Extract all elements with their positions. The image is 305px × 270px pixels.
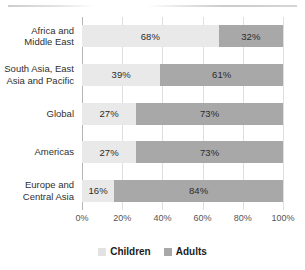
bar-value-label: 61% — [212, 69, 231, 80]
category-label-line: Americas — [0, 146, 74, 158]
bar-segment-children: 16% — [82, 180, 114, 202]
x-tick-label: 80% — [234, 213, 252, 223]
category-label: South Asia, EastAsia and Pacific — [0, 63, 74, 86]
legend-swatch-adults-icon — [164, 248, 172, 256]
bar-value-label: 16% — [88, 185, 107, 196]
bar-value-label: 73% — [200, 147, 219, 158]
legend-label: Adults — [176, 246, 207, 257]
bar-segment-adults: 73% — [136, 141, 283, 163]
category-label-line: Central Asia — [0, 191, 74, 203]
bar-segment-adults: 32% — [219, 25, 283, 47]
category-label-line: South Asia, East — [0, 63, 74, 75]
legend-item-children[interactable]: Children — [98, 246, 151, 257]
x-tick-label: 60% — [194, 213, 212, 223]
bar-value-label: 84% — [189, 185, 208, 196]
stacked-bar-chart: Africa andMiddle EastSouth Asia, EastAsi… — [0, 0, 305, 270]
bar-value-label: 27% — [99, 147, 118, 158]
x-tick-label: 0% — [75, 213, 88, 223]
bar-value-label: 73% — [200, 108, 219, 119]
category-label-line: Middle East — [0, 36, 74, 48]
bar-value-label: 68% — [141, 31, 160, 42]
chart-legend: ChildrenAdults — [0, 246, 305, 257]
bar-row: 27%73% — [82, 141, 283, 163]
value-axis-tick-labels: 0%20%40%60%80%100% — [82, 213, 283, 227]
bar-segment-adults: 73% — [136, 103, 283, 125]
bar-segment-adults: 84% — [114, 180, 283, 202]
category-label: Europe andCentral Asia — [0, 179, 74, 202]
bar-segment-children: 27% — [82, 103, 136, 125]
bar-row: 16%84% — [82, 180, 283, 202]
legend-label: Children — [110, 246, 151, 257]
legend-item-adults[interactable]: Adults — [164, 246, 207, 257]
bar-value-label: 32% — [241, 31, 260, 42]
gridline-100 — [283, 17, 284, 210]
bar-rows: 68%32%39%61%27%73%27%73%16%84% — [82, 17, 283, 210]
top-edge-artifact — [8, 5, 297, 7]
category-axis-labels: Africa andMiddle EastSouth Asia, EastAsi… — [0, 17, 78, 210]
bar-row: 39%61% — [82, 64, 283, 86]
category-label-line: Asia and Pacific — [0, 75, 74, 87]
category-label: Global — [0, 108, 74, 120]
category-label-line: Europe and — [0, 179, 74, 191]
bar-segment-adults: 61% — [160, 64, 283, 86]
x-tick-label: 20% — [113, 213, 131, 223]
bar-row: 68%32% — [82, 25, 283, 47]
bar-value-label: 27% — [99, 108, 118, 119]
bar-segment-children: 68% — [82, 25, 219, 47]
x-tick-label: 100% — [271, 213, 294, 223]
x-tick-label: 40% — [153, 213, 171, 223]
bar-value-label: 39% — [112, 69, 131, 80]
category-label: Africa andMiddle East — [0, 25, 74, 48]
legend-swatch-children-icon — [98, 248, 106, 256]
bar-segment-children: 39% — [82, 64, 160, 86]
bar-row: 27%73% — [82, 103, 283, 125]
category-label-line: Africa and — [0, 25, 74, 37]
category-label-line: Global — [0, 108, 74, 120]
category-label: Americas — [0, 146, 74, 158]
plot-area: 68%32%39%61%27%73%27%73%16%84% — [82, 17, 283, 210]
bar-segment-children: 27% — [82, 141, 136, 163]
